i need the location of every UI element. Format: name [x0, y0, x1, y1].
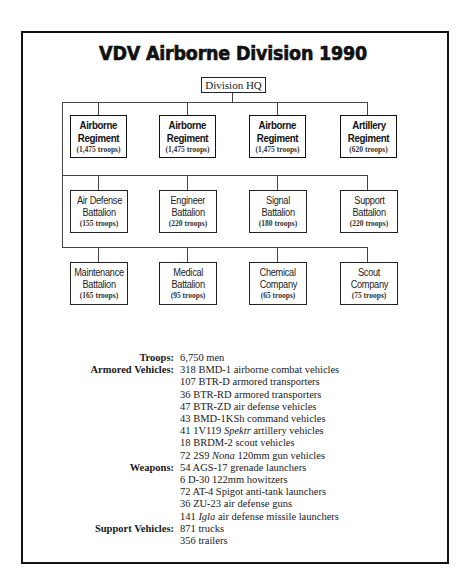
stat-items: 54 AGS-17 grenade launchers6 D-30 122mm … [180, 462, 420, 523]
connector-row2-stem [187, 175, 188, 190]
connector-hq-stem [232, 92, 233, 102]
unit-type: Regiment [257, 132, 298, 145]
division-hq-box: Division HQ [201, 77, 266, 93]
stat-label: Weapons: [60, 462, 180, 523]
connector-row3-stem [98, 247, 99, 262]
stat-item: 356 trailers [180, 535, 420, 547]
unit-name: Maintenance [74, 267, 124, 279]
unit-troops: (220 troops) [169, 219, 207, 229]
stat-item: 47 BTR-ZD air defense vehicles [180, 401, 420, 413]
stat-item: 141 Igla air defense missile launchers [180, 511, 420, 523]
unit-box-maintenance-battalion: Maintenance Battalion (165 troops) [70, 262, 128, 305]
connector-row3-stem [187, 247, 188, 262]
unit-troops: (155 troops) [80, 219, 118, 229]
unit-type: Regiment [167, 132, 208, 145]
unit-troops: (65 troops) [261, 291, 296, 301]
unit-name: Support [354, 195, 384, 207]
stat-items: 6,750 men [180, 352, 420, 364]
connector-row1-stem [187, 102, 188, 115]
unit-name: Air Defense [76, 195, 121, 207]
division-stats: Troops: 6,750 men Armored Vehicles: 318 … [60, 352, 420, 547]
unit-name: Airborne [80, 119, 118, 132]
unit-troops: (1,475 troops) [76, 145, 120, 155]
unit-type: Battalion [82, 207, 115, 219]
connector-row2-horizontal [62, 175, 368, 176]
stat-group-troops: Troops: 6,750 men [60, 352, 420, 364]
unit-name: Airborne [169, 119, 207, 132]
connector-row1-stem [367, 102, 368, 115]
unit-troops: (165 troops) [80, 291, 118, 301]
unit-type: Company [259, 279, 296, 291]
stat-item: 54 AGS-17 grenade launchers [180, 462, 420, 474]
connector-row1-stem [277, 102, 278, 115]
unit-box-airborne-regiment-2: Airborne Regiment (1,475 troops) [159, 115, 216, 158]
unit-box-airborne-regiment-3: Airborne Regiment (1,475 troops) [249, 115, 306, 158]
unit-type: Battalion [261, 207, 294, 219]
connector-row2-stem [367, 175, 368, 190]
stat-label: Support Vehicles: [60, 523, 180, 547]
stat-item: 6,750 men [180, 352, 420, 364]
unit-name: Chemical [260, 267, 296, 279]
connector-row2-stem [98, 175, 99, 190]
connector-row1-horizontal [62, 102, 368, 103]
unit-box-artillery-regiment: Artillery Regiment (620 troops) [340, 115, 397, 158]
unit-name: Engineer [171, 195, 206, 207]
unit-box-airborne-regiment-1: Airborne Regiment (1,475 troops) [70, 115, 127, 158]
unit-type: Regiment [78, 132, 119, 145]
stat-item: 72 2S9 Nona 120mm gun vehicles [180, 450, 420, 462]
unit-troops: (75 troops) [352, 291, 387, 301]
unit-name: Airborne [259, 119, 297, 132]
unit-type: Regiment [348, 132, 389, 145]
stat-item: 6 D-30 122mm howitzers [180, 474, 420, 486]
stat-item: 41 1V119 Spektr artillery vehicles [180, 425, 420, 437]
stat-group-armored-vehicles: Armored Vehicles: 318 BMD-1 airborne com… [60, 364, 420, 462]
stat-item: 36 BTR-RD armored transporters [180, 389, 420, 401]
stat-items: 318 BMD-1 airborne combat vehicles107 BT… [180, 364, 420, 462]
stat-item: 43 BMD-1KSh command vehicles [180, 413, 420, 425]
unit-type: Battalion [171, 279, 204, 291]
unit-name: Signal [266, 195, 290, 207]
unit-box-engineer-battalion: Engineer Battalion (220 troops) [159, 190, 217, 233]
unit-box-signal-battalion: Signal Battalion (180 troops) [249, 190, 307, 233]
unit-box-chemical-company: Chemical Company (65 troops) [249, 262, 307, 305]
stat-item: 107 BTR-D armored transporters [180, 376, 420, 388]
unit-troops: (220 troops) [350, 219, 388, 229]
unit-type: Battalion [352, 207, 385, 219]
unit-troops: (620 troops) [349, 145, 387, 155]
stat-item: 72 AT-4 Spigot anti-tank launchers [180, 486, 420, 498]
connector-row2-stem [277, 175, 278, 190]
unit-type: Company [350, 279, 387, 291]
unit-troops: (1,475 troops) [165, 145, 209, 155]
stat-label: Armored Vehicles: [60, 364, 180, 462]
stat-item: 36 ZU-23 air defense guns [180, 498, 420, 510]
unit-box-medical-battalion: Medical Battalion (95 troops) [159, 262, 217, 305]
unit-name: Medical [173, 267, 203, 279]
unit-troops: (180 troops) [259, 219, 297, 229]
unit-troops: (1,475 troops) [255, 145, 299, 155]
stat-item: 318 BMD-1 airborne combat vehicles [180, 364, 420, 376]
unit-box-scout-company: Scout Company (75 troops) [340, 262, 398, 305]
stat-item: 18 BRDM-2 scout vehicles [180, 437, 420, 449]
unit-box-air-defense-battalion: Air Defense Battalion (155 troops) [70, 190, 128, 233]
connector-row3-stem [367, 247, 368, 262]
stat-group-weapons: Weapons: 54 AGS-17 grenade launchers6 D-… [60, 462, 420, 523]
unit-type: Battalion [171, 207, 204, 219]
connector-row3-horizontal [62, 247, 368, 248]
unit-troops: (95 troops) [171, 291, 206, 301]
unit-box-support-battalion: Support Battalion (220 troops) [340, 190, 398, 233]
connector-row1-stem [98, 102, 99, 115]
unit-name: Scout [358, 267, 380, 279]
stat-item: 871 trucks [180, 523, 420, 535]
stat-label: Troops: [60, 352, 180, 364]
stat-group-support-vehicles: Support Vehicles: 871 trucks356 trailers [60, 523, 420, 547]
connector-row3-stem [277, 247, 278, 262]
page-title: VDV Airborne Division 1990 [0, 43, 466, 65]
unit-type: Battalion [82, 279, 115, 291]
unit-name: Artillery [352, 119, 385, 132]
stat-items: 871 trucks356 trailers [180, 523, 420, 547]
